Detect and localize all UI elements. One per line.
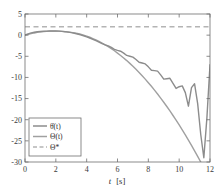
x-tick-label: 12 xyxy=(206,165,214,174)
y-tick-label: 0 xyxy=(18,31,22,40)
x-axis-title-unit: [s] xyxy=(116,176,125,186)
x-tick-label: 6 xyxy=(116,165,120,174)
x-tick-label: 2 xyxy=(54,165,58,174)
y-tick-label: 5 xyxy=(18,10,22,19)
y-tick-label: -10 xyxy=(11,73,22,82)
y-tick-label: -20 xyxy=(11,116,22,125)
y-tick-label: -30 xyxy=(11,158,22,167)
x-axis-title: t [s] xyxy=(109,176,126,186)
x-tick-label: 8 xyxy=(146,165,150,174)
legend-label-0: θ̇(t) xyxy=(50,122,61,131)
legend-label-1: Θ(t) xyxy=(50,132,63,141)
figure-container: 024681012 50-5-10-15-20-25-30 t [s] θ̇(t… xyxy=(0,0,221,191)
y-tick-label: -25 xyxy=(11,137,22,146)
x-tick-label: 0 xyxy=(23,165,27,174)
x-axis-tick-labels: 024681012 xyxy=(23,165,214,174)
x-axis-title-symbol: t xyxy=(109,176,112,186)
x-tick-label: 4 xyxy=(85,165,89,174)
y-tick-label: -5 xyxy=(15,52,22,61)
legend[interactable]: θ̇(t)Θ(t)Θ* xyxy=(29,118,81,156)
line-chart: 024681012 50-5-10-15-20-25-30 t [s] θ̇(t… xyxy=(0,0,221,191)
x-tick-label: 10 xyxy=(175,165,183,174)
svg-text:t [s]: t [s] xyxy=(109,176,126,186)
legend-label-2: Θ* xyxy=(50,143,59,152)
y-tick-label: -15 xyxy=(11,94,22,103)
y-axis-tick-labels: 50-5-10-15-20-25-30 xyxy=(11,10,22,167)
